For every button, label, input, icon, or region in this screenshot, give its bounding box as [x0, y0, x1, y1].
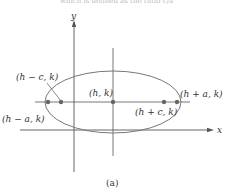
focus-leader-line	[47, 83, 61, 101]
left-focus-label: (h − c, k)	[16, 72, 59, 82]
y-axis-arrow-icon	[72, 20, 76, 27]
right-vertex-label: (h + a, k)	[180, 89, 223, 99]
x-axis-label: x	[217, 125, 222, 135]
left-vertex-label: (h − a, k)	[2, 114, 45, 124]
x-axis-arrow-icon	[207, 128, 214, 132]
left-focus-point	[59, 100, 63, 104]
right-focus-label: (h + c, k)	[135, 107, 178, 117]
figure-caption: (a)	[106, 178, 118, 188]
center-label: (h, k)	[89, 88, 113, 98]
right-focus-point	[162, 100, 166, 104]
center-point	[111, 100, 115, 104]
right-vertex-point	[175, 100, 179, 104]
top-text: which is defined as the ratio c/a	[60, 0, 173, 5]
y-axis-label: y	[70, 11, 77, 21]
left-vertex-point	[46, 100, 50, 104]
ellipse-diagram: which is defined as the ratio c/a y x (h…	[0, 0, 231, 193]
